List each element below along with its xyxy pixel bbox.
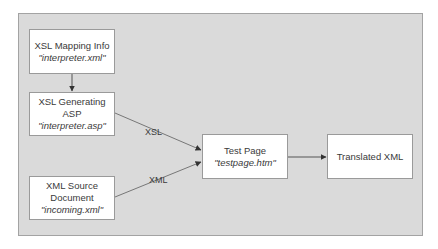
edge-label-xml: XML xyxy=(149,175,168,185)
node-file: "incoming.xml" xyxy=(41,204,103,216)
node-file: "testpage.htm" xyxy=(214,157,276,169)
node-title: XML Source xyxy=(46,180,98,192)
node-translated-xml: Translated XML xyxy=(327,134,413,179)
node-file: "interpreter.xml" xyxy=(38,52,105,64)
node-test-page: Test Page "testpage.htm" xyxy=(202,134,288,179)
node-xml-source-document: XML Source Document "incoming.xml" xyxy=(29,176,115,220)
node-title: XSL Mapping Info xyxy=(34,40,109,52)
node-title: Translated XML xyxy=(337,151,404,163)
node-xsl-generating-asp: XSL Generating ASP "interpreter.asp" xyxy=(29,92,115,136)
node-title: XSL Generating ASP xyxy=(30,96,114,120)
node-file: "interpreter.asp" xyxy=(38,120,106,132)
edge-label-xsl: XSL xyxy=(145,127,162,137)
node-xsl-mapping-info: XSL Mapping Info "interpreter.xml" xyxy=(29,29,115,74)
node-title-line2: Document xyxy=(50,192,93,204)
node-title: Test Page xyxy=(224,145,266,157)
